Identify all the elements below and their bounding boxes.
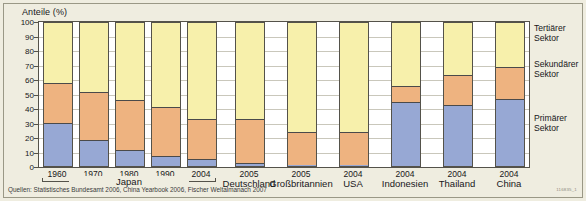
legend-primary-line1: Primärer — [534, 113, 567, 123]
legend-tertiary-line2: Sektor — [534, 33, 559, 43]
legend-item-primary: Primärer Sektor — [534, 114, 567, 134]
stacked-bar[interactable] — [79, 22, 109, 167]
stacked-bar[interactable] — [187, 22, 217, 167]
legend-primary-line2: Sektor — [534, 123, 559, 133]
bar-segment-tertiary — [444, 23, 472, 74]
stacked-bar[interactable] — [443, 22, 473, 167]
bar-segment-primary — [116, 150, 144, 166]
axis-title: Anteile (%) — [22, 7, 67, 17]
y-axis-tick-label: 10 — [25, 148, 34, 157]
bar-segment-secondary — [340, 132, 368, 165]
y-axis-tick-label: 80 — [25, 47, 34, 56]
y-axis-tick-label: 70 — [25, 61, 34, 70]
bar-segment-secondary — [444, 75, 472, 105]
bar-slot — [287, 22, 317, 167]
stacked-bar[interactable] — [287, 22, 317, 167]
y-axis-tick-label: 90 — [25, 32, 34, 41]
bar-segment-primary — [288, 165, 316, 166]
bar-segment-secondary — [288, 132, 316, 165]
bar-segment-primary — [80, 140, 108, 166]
bar-segment-tertiary — [80, 23, 108, 92]
bar-slot — [115, 22, 145, 167]
bar-segment-secondary — [188, 119, 216, 159]
bar-segment-tertiary — [236, 23, 264, 119]
bar-segment-secondary — [496, 67, 524, 98]
legend-tertiary-line1: Tertiärer — [534, 23, 566, 33]
y-axis-tick-label: 20 — [25, 134, 34, 143]
legend-item-secondary: Sekundärer Sektor — [534, 60, 578, 80]
group-rule-tick — [42, 178, 43, 182]
bar-segment-tertiary — [116, 23, 144, 100]
y-axis-tick-label: 40 — [25, 105, 34, 114]
bar-slot — [235, 22, 265, 167]
y-axis-tick-label: 100 — [21, 18, 34, 27]
stacked-bar[interactable] — [151, 22, 181, 167]
figure-id-code: 116835_1 — [556, 187, 577, 192]
bar-segment-tertiary — [152, 23, 180, 107]
bar-segment-primary — [188, 159, 216, 166]
bar-segment-primary — [236, 163, 264, 166]
stacked-bar[interactable] — [495, 22, 525, 167]
bar-segment-tertiary — [392, 23, 420, 86]
plot-area — [38, 21, 530, 168]
bar-slot — [443, 22, 473, 167]
bar-segment-secondary — [116, 100, 144, 150]
bar-segment-primary — [496, 99, 524, 166]
bar-slot — [79, 22, 109, 167]
bar-segment-primary — [444, 105, 472, 166]
legend-secondary-line1: Sekundärer — [534, 59, 578, 69]
bar-slot — [151, 22, 181, 167]
chart-figure: Anteile (%) 1009080706050403020100 19601… — [0, 0, 586, 201]
bar-segment-primary — [152, 156, 180, 166]
bar-segment-secondary — [392, 86, 420, 102]
y-axis-tick-label: 50 — [25, 90, 34, 99]
y-axis-tick-label: 60 — [25, 76, 34, 85]
bar-segment-primary — [392, 102, 420, 166]
source-note: Quellen: Statistisches Bundesamt 2006, C… — [8, 186, 267, 193]
y-axis-tick-label: 30 — [25, 119, 34, 128]
bar-slot — [339, 22, 369, 167]
bar-segment-secondary — [80, 92, 108, 141]
bar-segment-secondary — [44, 83, 72, 123]
stacked-bar[interactable] — [43, 22, 73, 167]
legend-secondary-line2: Sektor — [534, 69, 559, 79]
bar-segment-primary — [44, 123, 72, 166]
bar-segment-secondary — [152, 107, 180, 156]
stacked-bar[interactable] — [235, 22, 265, 167]
bar-segment-tertiary — [340, 23, 368, 132]
bar-segment-tertiary — [496, 23, 524, 67]
stacked-bar[interactable] — [115, 22, 145, 167]
bar-segment-tertiary — [188, 23, 216, 119]
bar-segment-secondary — [236, 119, 264, 163]
group-label: China — [449, 178, 569, 189]
y-axis: 1009080706050403020100 — [20, 21, 38, 168]
legend-item-tertiary: Tertiärer Sektor — [534, 24, 566, 44]
stacked-bar[interactable] — [391, 22, 421, 167]
bar-segment-primary — [340, 165, 368, 166]
bar-slot — [495, 22, 525, 167]
bar-segment-tertiary — [288, 23, 316, 132]
bar-slot — [43, 22, 73, 167]
bar-slot — [391, 22, 421, 167]
bar-segment-tertiary — [44, 23, 72, 83]
stacked-bar[interactable] — [339, 22, 369, 167]
bar-slot — [187, 22, 217, 167]
